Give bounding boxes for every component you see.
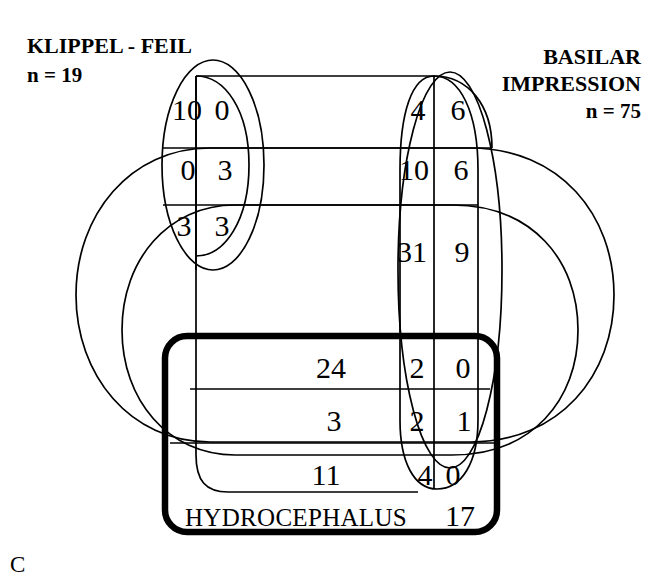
cell-left-r2-b: 3	[218, 153, 233, 186]
outer-stadium-shape	[76, 148, 614, 442]
left-column-capsule	[196, 76, 418, 492]
cell-right-r2-b: 6	[454, 153, 469, 186]
klippel-feil-title: KLIPPEL - FEIL	[27, 33, 192, 58]
cell-right-r2-a: 10	[399, 153, 429, 186]
cell-box-total: 17	[445, 499, 475, 532]
venn-diagram-svg: 10 0 0 3 3 3 4 6 10 6 31 9 24 2 0 3 2 1 …	[0, 0, 668, 582]
cell-right-r3-b: 9	[455, 235, 470, 268]
panel-letter: C	[10, 552, 25, 577]
cell-box-r2-b: 1	[457, 404, 472, 437]
basilar-impression-title-line2: IMPRESSION	[502, 71, 641, 96]
hydrocephalus-title: HYDROCEPHALUS	[185, 504, 407, 531]
cell-right-r1-a: 4	[411, 93, 426, 126]
cell-right-r1-b: 6	[451, 93, 466, 126]
cell-left-r2-a: 0	[181, 153, 196, 186]
cell-box-r2-mid: 3	[327, 404, 342, 437]
cell-box-r1-b: 0	[456, 351, 471, 384]
venn-diagram-figure: 10 0 0 3 3 3 4 6 10 6 31 9 24 2 0 3 2 1 …	[0, 0, 668, 582]
cell-left-r3-b: 3	[215, 209, 230, 242]
cell-box-r3-b: 0	[446, 458, 461, 491]
cell-left-r3-a: 3	[177, 209, 192, 242]
cell-right-r3-a: 31	[397, 235, 427, 268]
basilar-impression-title-line1: BASILAR	[543, 44, 642, 69]
cell-box-r1-a: 2	[410, 351, 425, 384]
cell-left-r1-b: 0	[215, 93, 230, 126]
cell-box-r3-a: 4	[418, 458, 433, 491]
cell-left-r1-a: 10	[172, 93, 202, 126]
cell-box-r3-mid: 11	[312, 458, 341, 491]
inner-stadium-shape	[122, 205, 578, 455]
cell-box-r2-a: 2	[410, 404, 425, 437]
klippel-feil-count: n = 19	[27, 63, 82, 87]
basilar-impression-count: n = 75	[586, 99, 641, 123]
cell-box-r1-mid: 24	[316, 351, 346, 384]
